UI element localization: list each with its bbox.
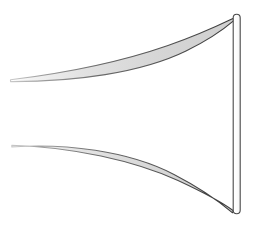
technical-line-drawing <box>0 0 253 227</box>
vertical-rod-body <box>233 14 240 214</box>
vertical-rod <box>233 14 240 214</box>
figure-root <box>0 0 253 227</box>
